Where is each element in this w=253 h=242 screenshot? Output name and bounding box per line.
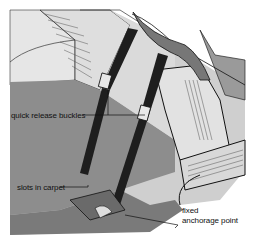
label-slots-in-carpet: slots in carpet [17, 183, 65, 192]
label-anchorage-point: anchorage point [182, 216, 238, 225]
harness-diagram: quick release buckles slots in carpet fi… [0, 0, 253, 242]
label-quick-release-buckles: quick release buckles [11, 111, 85, 120]
label-fixed: fixed [182, 206, 198, 215]
illustration-drawing [0, 0, 253, 242]
